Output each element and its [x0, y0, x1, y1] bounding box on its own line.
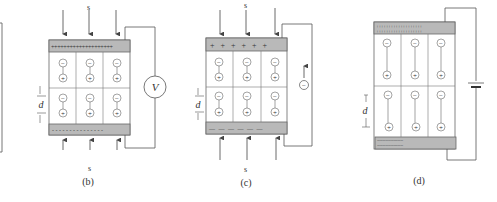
panel-d: +++++++++++++++++++ +++++++++++++++++++ … — [362, 8, 484, 187]
dimension-label: d — [196, 99, 202, 110]
svg-text:+: + — [88, 75, 92, 83]
stress-arrows-bottom — [63, 140, 117, 150]
svg-text:−: − — [88, 95, 92, 103]
svg-text:+++++++++++++++++++: +++++++++++++++++++ — [376, 29, 423, 34]
svg-text:+: + — [61, 75, 65, 83]
svg-text:+: + — [273, 109, 277, 117]
dimension-label: d — [363, 105, 369, 116]
svg-text:+: + — [115, 75, 119, 83]
dimension-label: d — [39, 99, 45, 110]
svg-text:−: − — [413, 92, 417, 100]
svg-text:−: − — [61, 60, 65, 68]
svg-text:+: + — [273, 74, 277, 82]
svg-text:−: − — [115, 60, 119, 68]
bottom-electrode-charges: — — — — — — — [208, 126, 264, 132]
panel-a-edge — [0, 23, 2, 152]
svg-text:−: − — [217, 93, 221, 101]
svg-text:−: − — [439, 92, 443, 100]
battery-icon — [468, 83, 484, 87]
caption-c: (c) — [240, 177, 251, 189]
caption-b: (b) — [82, 176, 94, 188]
svg-text:−: − — [273, 93, 277, 101]
svg-text:+: + — [439, 124, 443, 132]
stress-arrows-top — [220, 8, 275, 34]
panel-c: s + + + + + + — — — — — — −+ −+ −+ −+ −+… — [195, 1, 312, 189]
caption-d: (d) — [413, 175, 425, 187]
svg-text:−: − — [115, 95, 119, 103]
svg-text:−: − — [385, 40, 389, 48]
svg-text:−: − — [439, 40, 443, 48]
svg-text:+: + — [439, 72, 443, 80]
svg-text:+: + — [387, 124, 391, 132]
svg-text:+: + — [414, 124, 418, 132]
svg-text:−: − — [217, 59, 221, 67]
stress-label-bottom: s — [244, 165, 247, 174]
svg-text:−: − — [61, 95, 65, 103]
svg-text:−: − — [245, 93, 249, 101]
top-electrode-charges: + + + + + + — [210, 41, 269, 50]
svg-text:+: + — [385, 72, 389, 80]
stress-arrows-top — [63, 10, 116, 34]
stress-arrows-bottom — [220, 138, 276, 160]
svg-text:+: + — [217, 109, 221, 117]
svg-text:−: − — [386, 92, 390, 100]
svg-text:+: + — [61, 110, 65, 118]
svg-text:+: + — [217, 74, 221, 82]
svg-text:+: + — [88, 110, 92, 118]
piezoelectric-figure: s ++++++++++++++++++++ - - - - - - - - -… — [0, 0, 497, 202]
electron-label: − — [302, 82, 306, 90]
stress-label-bottom: s — [88, 164, 91, 173]
bottom-electrode-charges: - - - - - - - - - - - - - - - — [52, 127, 103, 133]
svg-text:−: − — [88, 60, 92, 68]
svg-text:+: + — [245, 74, 249, 82]
stress-label-top: s — [244, 1, 247, 10]
svg-text:−: − — [413, 40, 417, 48]
stress-label-top: s — [87, 3, 90, 12]
top-electrode-charges: ++++++++++++++++++++ — [51, 44, 114, 50]
panel-b: s ++++++++++++++++++++ - - - - - - - - -… — [37, 3, 166, 188]
svg-text:−: − — [273, 59, 277, 67]
svg-text:+: + — [115, 110, 119, 118]
svg-text:-------------------: ------------------- — [377, 143, 404, 148]
svg-text:−: − — [245, 59, 249, 67]
svg-text:+: + — [413, 72, 417, 80]
svg-text:+: + — [245, 109, 249, 117]
